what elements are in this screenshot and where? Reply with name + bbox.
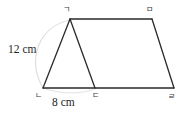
edge-interior-diagonal: [70, 19, 95, 88]
measurement-label-bottom-side: 8 cm: [52, 97, 75, 109]
vertex-label-b: ㅁ: [146, 6, 153, 14]
vertex-label-c: ㄴ: [35, 92, 42, 100]
vertex-label-d: ㄷ: [92, 92, 99, 100]
measurement-label-left-side: 12 cm: [8, 44, 36, 56]
edge-left-slant: [43, 19, 70, 88]
vertex-label-a: ㄱ: [63, 6, 70, 14]
construction-arc-lower: [43, 88, 96, 93]
construction-arc: [36, 20, 70, 88]
edge-right: [152, 19, 174, 88]
vertex-label-e: ㄹ: [168, 93, 175, 101]
geometry-figure-canvas: ㄱ ㅁ ㄴ ㄷ ㄹ 12 cm 8 cm: [0, 0, 192, 117]
